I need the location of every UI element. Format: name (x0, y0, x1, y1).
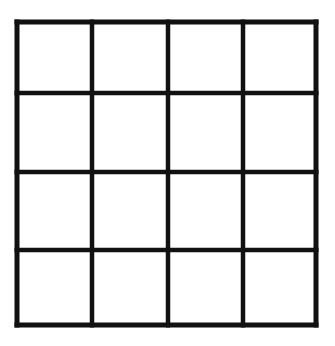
grid-figure (0, 0, 335, 346)
grid-cell-r4c4[interactable] (243, 250, 316, 325)
grid-cell-r3c2[interactable] (92, 172, 168, 250)
grid-cell-r4c3[interactable] (168, 250, 243, 325)
grid-cell-r4c1[interactable] (17, 250, 92, 325)
grid-svg (0, 0, 335, 346)
grid-cell-r3c1[interactable] (17, 172, 92, 250)
grid-cell-r4c2[interactable] (92, 250, 168, 325)
grid-cell-r2c4[interactable] (243, 93, 316, 172)
grid-cell-r2c1[interactable] (17, 93, 92, 172)
grid-cell-r3c4[interactable] (243, 172, 316, 250)
grid-cell-r1c1[interactable] (17, 22, 92, 93)
grid-cell-r3c3[interactable] (168, 172, 243, 250)
grid-cell-r2c2[interactable] (92, 93, 168, 172)
grid-cell-r1c2[interactable] (92, 22, 168, 93)
grid-cell-r1c3[interactable] (168, 22, 243, 93)
grid-cell-r2c3[interactable] (168, 93, 243, 172)
page-canvas (0, 0, 335, 346)
grid-cell-r1c4[interactable] (243, 22, 316, 93)
